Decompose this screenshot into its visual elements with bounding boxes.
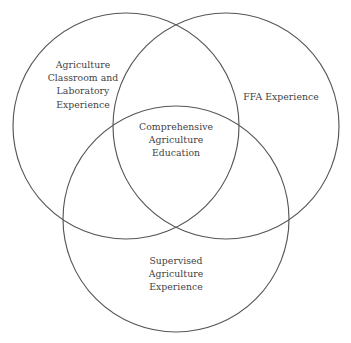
label-supervised-agriculture-experience: Supervised Agriculture Experience [117, 254, 235, 294]
venn-diagram-figure: Agriculture Classroom and Laboratory Exp… [0, 0, 351, 343]
label-agriculture-classroom-and-laboratory-experience: Agriculture Classroom and Laboratory Exp… [31, 58, 135, 111]
label-ffa-experience: FFA Experience [226, 90, 336, 103]
label-comprehensive-agriculture-education: Comprehensive Agriculture Education [117, 120, 235, 160]
